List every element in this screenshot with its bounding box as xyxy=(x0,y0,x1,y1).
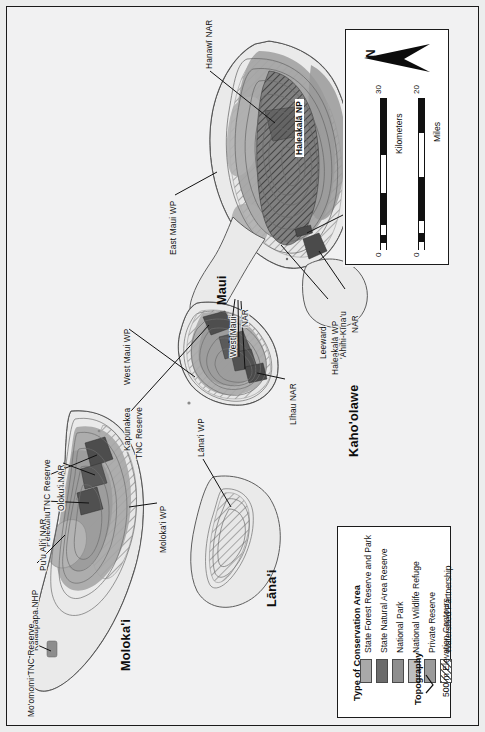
label-moomomi-tnc: Mo'omomi TNC Reserve xyxy=(27,624,36,717)
legend-label-national-wildlife-refuge: National Wildlife Refuge xyxy=(411,561,421,653)
scale-bar-miles xyxy=(418,98,425,250)
scale-kilometers-max-label: 30 xyxy=(374,85,383,94)
legend-label-state-natural-area-reserve: State Natural Area Reserve xyxy=(379,548,389,653)
map-neatline-frame: Maui Kaho'olawe Lāna'i Moloka'i Hanawī N… xyxy=(6,6,479,726)
label-olokui-nar: Oloku'i NAR xyxy=(57,464,66,511)
label-ahihi-kinau-line2: NAR xyxy=(351,315,360,333)
north-arrow-icon xyxy=(360,38,438,78)
scale-miles-max-label: 20 xyxy=(412,85,421,94)
legend-label-elevation-contours: 500 m Elevation Contours xyxy=(441,598,451,697)
island-label-maui: Maui xyxy=(215,275,229,305)
label-west-maui-nar-line2: NAR xyxy=(241,309,250,327)
legend-label-private-reserve: Private Reserve xyxy=(427,592,437,653)
label-molokai-wp: Moloka'i WP xyxy=(159,506,168,554)
scale-miles-min-label: 0 xyxy=(412,253,421,257)
legend-inset: Type of Conservation Area State Forest R… xyxy=(337,526,451,718)
label-lihau-nar: Līhau NAR xyxy=(289,383,298,425)
label-haleakala-np: Haleakalā NP xyxy=(295,99,304,157)
north-arrow-group xyxy=(360,38,438,78)
label-east-maui-wp: East Maui WP xyxy=(169,201,178,255)
label-lanai-wp: Lāna'i WP xyxy=(197,418,206,457)
label-ahihi-kinau-line1: 'Āhihi-Kīna'u xyxy=(339,311,348,359)
north-arrow-and-scale-inset: N 30 0 Kilometers 20 xyxy=(345,29,449,265)
label-west-maui-wp: West Maui WP xyxy=(123,328,132,385)
legend-swatch-national-park xyxy=(392,659,404,683)
scale-bar-kilometers xyxy=(380,98,387,250)
scale-miles-unit-label: Miles xyxy=(432,122,442,142)
legend-label-national-park: National Park xyxy=(395,601,405,653)
island-label-lanai: Lāna'i xyxy=(265,569,279,607)
label-leeward-haleakala-line1: Leeward xyxy=(319,326,328,359)
scale-kilometers-min-label: 0 xyxy=(374,253,383,257)
contour-line-icon xyxy=(424,673,440,695)
map-page: Maui Kaho'olawe Lāna'i Moloka'i Hanawī N… xyxy=(0,0,485,732)
label-puu-alii-nar: Pu'u Ali'i NAR xyxy=(39,518,48,571)
legend-swatch-state-natural-area-reserve xyxy=(376,659,388,683)
label-kapunakea-tnc-line2: TNC Reserve xyxy=(135,407,144,459)
legend-section2-title: Topography xyxy=(413,653,423,705)
island-label-kahoolawe: Kaho'olawe xyxy=(347,385,361,457)
scale-kilometers-unit-label: Kilometers xyxy=(394,113,404,154)
label-kapunakea-tnc-line1: Kapunakea xyxy=(123,408,132,451)
label-hanawi-nar: Hanawī NAR xyxy=(205,20,214,69)
legend-swatch-state-forest-reserve xyxy=(360,659,372,683)
legend-section1-title: Type of Conservation Area xyxy=(352,585,362,701)
legend-label-state-forest-reserve: State Forest Reserve and Park xyxy=(363,535,373,653)
island-label-molokai: Moloka'i xyxy=(119,619,133,671)
north-arrow-label: N xyxy=(364,49,378,58)
label-west-maui-nar-line1: West Maui xyxy=(229,317,238,357)
